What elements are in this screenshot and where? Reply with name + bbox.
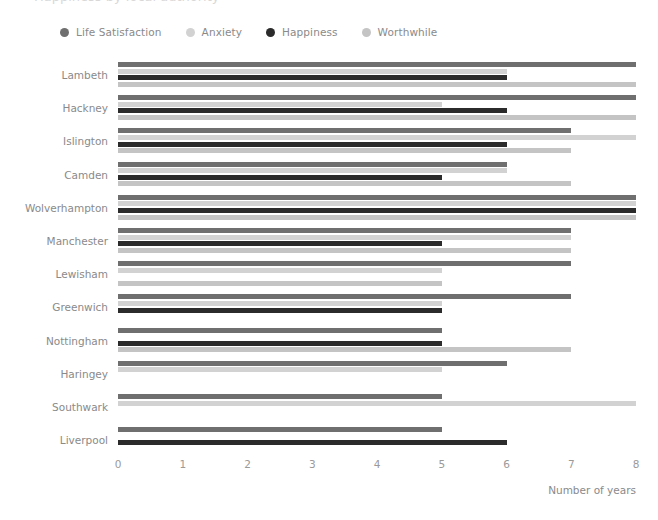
- bar-life-satisfaction[interactable]: [118, 328, 442, 333]
- x-tick-label: 0: [115, 458, 122, 470]
- bar-worthwhile[interactable]: [118, 181, 571, 186]
- bar-life-satisfaction[interactable]: [118, 95, 636, 100]
- x-tick-label: 4: [374, 458, 381, 470]
- legend-label: Anxiety: [202, 26, 242, 38]
- bar-happiness[interactable]: [118, 241, 442, 246]
- bar-group: [118, 361, 507, 387]
- legend-item-happiness[interactable]: Happiness: [266, 26, 338, 38]
- category-label: Nottingham: [0, 335, 108, 347]
- x-tick-label: 2: [244, 458, 251, 470]
- bar-life-satisfaction[interactable]: [118, 162, 507, 167]
- x-tick-label: 7: [568, 458, 575, 470]
- bar-group: [118, 128, 636, 154]
- bar-worthwhile[interactable]: [118, 248, 571, 253]
- bar-happiness[interactable]: [118, 341, 442, 346]
- legend-item-anxiety[interactable]: Anxiety: [186, 26, 242, 38]
- bar-life-satisfaction[interactable]: [118, 261, 571, 266]
- x-tick-label: 3: [309, 458, 316, 470]
- legend-dot-icon: [60, 28, 69, 37]
- bar-group: [118, 62, 636, 88]
- plot-area: LambethHackneyIslingtonCamdenWolverhampt…: [0, 58, 658, 458]
- bar-anxiety[interactable]: [118, 201, 636, 206]
- x-tick-label: 8: [633, 458, 640, 470]
- x-axis-title: Number of years: [548, 484, 636, 496]
- bar-life-satisfaction[interactable]: [118, 128, 571, 133]
- category-label: Southwark: [0, 401, 108, 413]
- category-label: Lewisham: [0, 268, 108, 280]
- bar-worthwhile[interactable]: [118, 115, 636, 120]
- bar-worthwhile[interactable]: [118, 347, 571, 352]
- bar-life-satisfaction[interactable]: [118, 195, 636, 200]
- chart-legend: Life SatisfactionAnxietyHappinessWorthwh…: [0, 22, 658, 42]
- bar-happiness[interactable]: [118, 142, 507, 147]
- legend-dot-icon: [186, 28, 195, 37]
- bar-anxiety[interactable]: [118, 235, 571, 240]
- bar-happiness[interactable]: [118, 308, 442, 313]
- category-label: Liverpool: [0, 434, 108, 446]
- x-tick-label: 1: [179, 458, 186, 470]
- legend-label: Life Satisfaction: [76, 26, 162, 38]
- category-label: Wolverhampton: [0, 202, 108, 214]
- legend-label: Worthwhile: [378, 26, 438, 38]
- category-label: Lambeth: [0, 69, 108, 81]
- bar-worthwhile[interactable]: [118, 281, 442, 286]
- bar-group: [118, 95, 636, 121]
- bar-chart: Happiness by local authority Life Satisf…: [0, 0, 658, 520]
- bar-life-satisfaction[interactable]: [118, 294, 571, 299]
- bar-group: [118, 294, 571, 320]
- bar-worthwhile[interactable]: [118, 215, 636, 220]
- bar-life-satisfaction[interactable]: [118, 394, 442, 399]
- category-label: Haringey: [0, 368, 108, 380]
- category-label: Islington: [0, 135, 108, 147]
- bar-happiness[interactable]: [118, 175, 442, 180]
- bar-anxiety[interactable]: [118, 135, 636, 140]
- legend-item-life-satisfaction[interactable]: Life Satisfaction: [60, 26, 162, 38]
- bar-anxiety[interactable]: [118, 401, 636, 406]
- legend-dot-icon: [266, 28, 275, 37]
- chart-title-clipped: Happiness by local authority: [0, 0, 658, 14]
- bar-group: [118, 261, 571, 287]
- x-axis: 012345678: [0, 458, 658, 480]
- bar-worthwhile[interactable]: [118, 148, 571, 153]
- bar-anxiety[interactable]: [118, 102, 442, 107]
- page-title: Happiness by local authority: [34, 0, 220, 4]
- bar-anxiety[interactable]: [118, 168, 507, 173]
- bar-happiness[interactable]: [118, 75, 507, 80]
- bar-group: [118, 228, 571, 254]
- category-label: Hackney: [0, 102, 108, 114]
- x-tick-label: 6: [503, 458, 510, 470]
- bar-life-satisfaction[interactable]: [118, 62, 636, 67]
- bar-worthwhile[interactable]: [118, 82, 636, 87]
- category-label: Greenwich: [0, 301, 108, 313]
- category-label: Manchester: [0, 235, 108, 247]
- bar-anxiety[interactable]: [118, 301, 442, 306]
- bar-anxiety[interactable]: [118, 367, 442, 372]
- bar-happiness[interactable]: [118, 108, 507, 113]
- category-label: Camden: [0, 169, 108, 181]
- bar-group: [118, 427, 507, 453]
- legend-label: Happiness: [282, 26, 338, 38]
- bar-happiness[interactable]: [118, 440, 507, 445]
- bar-group: [118, 162, 571, 188]
- legend-dot-icon: [362, 28, 371, 37]
- bar-group: [118, 328, 571, 354]
- bar-group: [118, 394, 636, 420]
- bar-group: [118, 195, 636, 221]
- bar-anxiety[interactable]: [118, 69, 507, 74]
- bar-happiness[interactable]: [118, 208, 636, 213]
- bar-life-satisfaction[interactable]: [118, 228, 571, 233]
- bar-life-satisfaction[interactable]: [118, 361, 507, 366]
- bar-anxiety[interactable]: [118, 268, 442, 273]
- x-tick-label: 5: [438, 458, 445, 470]
- bar-life-satisfaction[interactable]: [118, 427, 442, 432]
- legend-item-worthwhile[interactable]: Worthwhile: [362, 26, 438, 38]
